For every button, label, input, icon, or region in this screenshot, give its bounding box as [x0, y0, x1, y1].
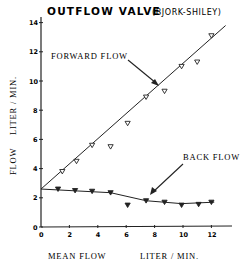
y-tick-label: 14 [29, 19, 39, 27]
annotation-back-flow: BACK FLOW [183, 152, 240, 162]
y-tick-label: 4 [33, 165, 38, 173]
data-point-forward-flow [195, 60, 200, 64]
data-point-back-flow [55, 187, 60, 191]
y-tick-label: 12 [29, 48, 38, 56]
x-tick-label: 12 [207, 231, 216, 239]
data-point-forward-flow [108, 145, 113, 149]
data-point-back-flow [143, 199, 148, 203]
x-tick-label: 0 [39, 231, 44, 239]
arrow-back-flow [153, 164, 183, 192]
chart: OUTFLOW VALVE (BJORK-SHILEY) 02468101202… [0, 0, 248, 273]
arrowhead-back-flow [150, 187, 157, 195]
x-tick-label: 8 [153, 231, 158, 239]
data-point-back-flow [108, 191, 113, 195]
x-axis-label: MEAN FLOW [48, 251, 106, 261]
annotation-forward-flow: FORWARD FLOW [51, 51, 128, 61]
chart-subtitle: (BJORK-SHILEY) [152, 8, 222, 17]
data-point-back-flow [209, 200, 214, 204]
data-point-back-flow [90, 189, 95, 193]
series-line-back-flow [41, 189, 214, 204]
y-axis-unit: LITER / MIN. [8, 76, 18, 135]
data-point-back-flow [125, 203, 130, 207]
x-tick-label: 2 [67, 231, 72, 239]
data-point-forward-flow [74, 159, 79, 163]
data-point-back-flow [72, 189, 77, 193]
data-point-back-flow [162, 200, 167, 204]
x-tick-label: 4 [96, 231, 101, 239]
arrow-forward-flow [128, 60, 156, 83]
data-point-forward-flow [60, 170, 65, 174]
y-tick-label: 2 [33, 194, 38, 202]
y-tick-label: 10 [29, 78, 39, 86]
data-point-back-flow [179, 203, 184, 207]
chart-title: OUTFLOW VALVE [47, 5, 161, 17]
data-point-forward-flow [90, 143, 95, 147]
data-point-forward-flow [179, 64, 184, 68]
data-point-forward-flow [209, 34, 214, 38]
data-point-forward-flow [125, 121, 130, 125]
data-point-forward-flow [162, 89, 167, 93]
data-point-forward-flow [143, 95, 148, 99]
data-point-back-flow [196, 202, 201, 206]
y-tick-label: 6 [33, 136, 38, 144]
x-axis-unit: LITER / MIN. [140, 251, 199, 261]
y-tick-label: 8 [33, 107, 38, 115]
x-tick-label: 6 [124, 231, 129, 239]
y-axis-label: FLOW [8, 148, 18, 175]
y-tick-label: 0 [33, 224, 38, 232]
x-tick-label: 10 [179, 231, 189, 239]
